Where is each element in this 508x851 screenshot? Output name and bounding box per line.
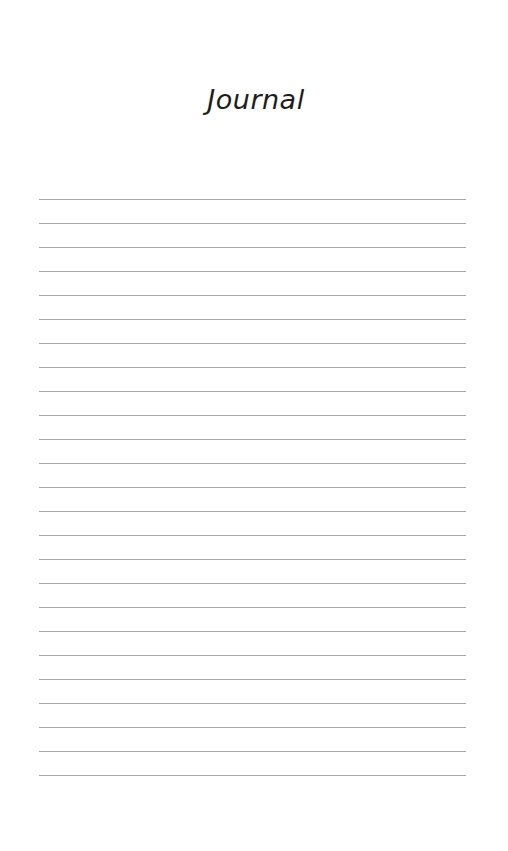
- ruled-line: [39, 655, 466, 656]
- ruled-line: [39, 631, 466, 632]
- page-title: Journal: [0, 84, 508, 115]
- ruled-line: [39, 343, 466, 344]
- ruled-line: [39, 295, 466, 296]
- ruled-line: [39, 415, 466, 416]
- ruled-line: [39, 199, 466, 200]
- ruled-line: [39, 559, 466, 560]
- ruled-line: [39, 727, 466, 728]
- ruled-line: [39, 703, 466, 704]
- ruled-line: [39, 439, 466, 440]
- ruled-line: [39, 679, 466, 680]
- ruled-line: [39, 271, 466, 272]
- ruled-line: [39, 535, 466, 536]
- ruled-line: [39, 511, 466, 512]
- ruled-line: [39, 583, 466, 584]
- ruled-line: [39, 319, 466, 320]
- ruled-line: [39, 751, 466, 752]
- ruled-line: [39, 367, 466, 368]
- ruled-line: [39, 223, 466, 224]
- ruled-line: [39, 391, 466, 392]
- ruled-line: [39, 247, 466, 248]
- ruled-line: [39, 487, 466, 488]
- ruled-line: [39, 775, 466, 776]
- ruled-line: [39, 607, 466, 608]
- ruled-line: [39, 463, 466, 464]
